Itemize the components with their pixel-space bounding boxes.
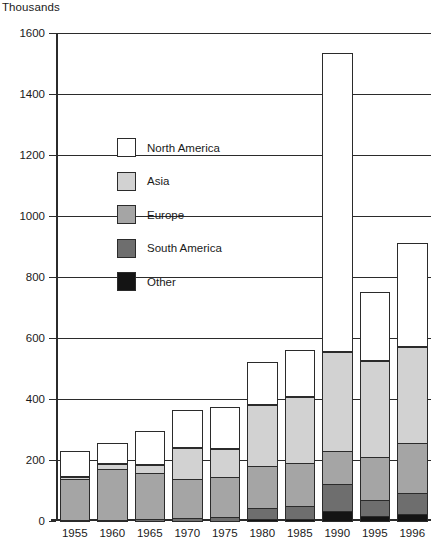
legend-label: Europe xyxy=(147,209,184,221)
legend-swatch xyxy=(117,205,136,224)
bar-segment xyxy=(210,477,241,518)
y-axis-tick-label: 1600 xyxy=(19,27,45,39)
bar-segment xyxy=(60,520,91,522)
bar-segment xyxy=(135,473,166,520)
y-axis-unit-label: Thousands xyxy=(2,1,60,13)
bar-group xyxy=(172,410,203,521)
bar-segment xyxy=(322,511,353,522)
legend-swatch xyxy=(117,172,136,191)
legend-item: Other xyxy=(117,272,222,291)
bar-group xyxy=(397,243,428,521)
y-axis-tick xyxy=(49,338,56,339)
y-axis-tick xyxy=(49,216,56,217)
bar-segment xyxy=(210,517,241,522)
bar-group xyxy=(97,443,128,521)
bar-segment xyxy=(397,443,428,493)
bar-segment xyxy=(135,519,166,522)
legend-item: South America xyxy=(117,239,222,258)
bar-group xyxy=(60,451,91,521)
bar-segment xyxy=(397,347,428,445)
y-axis-tick-label: 1000 xyxy=(19,210,45,222)
legend-swatch xyxy=(117,138,136,157)
y-axis-tick xyxy=(49,33,56,34)
bar-segment xyxy=(135,431,166,465)
legend-swatch xyxy=(117,272,136,291)
plot-area: 02004006008001000120014001600 xyxy=(56,33,431,521)
bar-group xyxy=(322,53,353,521)
bar-segment xyxy=(360,516,391,522)
legend-label: North America xyxy=(147,142,220,154)
legend-item: Asia xyxy=(117,172,222,191)
bar-segment xyxy=(172,518,203,523)
bar-segment xyxy=(247,362,278,405)
bar-segment xyxy=(247,466,278,509)
bar-segment xyxy=(210,449,241,478)
y-axis-tick xyxy=(49,94,56,95)
bar-group xyxy=(210,407,241,521)
bar-segment xyxy=(97,469,128,521)
bar-segment xyxy=(172,479,203,519)
x-axis-tick-label: 1996 xyxy=(387,527,435,539)
bar-segment xyxy=(210,407,241,448)
y-axis-tick xyxy=(49,399,56,400)
bar-segment xyxy=(97,520,128,522)
bar-group xyxy=(360,292,391,521)
y-axis-tick xyxy=(49,155,56,156)
bar-group xyxy=(135,431,166,521)
stacked-bar-chart: Thousands 02004006008001000120014001600 … xyxy=(0,0,435,559)
bar-segment xyxy=(285,519,316,522)
legend: North AmericaAsiaEuropeSouth AmericaOthe… xyxy=(117,138,222,291)
y-axis-tick xyxy=(49,460,56,461)
y-axis-tick-label: 200 xyxy=(26,454,45,466)
bar-segment xyxy=(285,350,316,397)
bar-segment xyxy=(397,493,428,516)
bar-group xyxy=(247,362,278,521)
y-axis-tick-label: 800 xyxy=(26,271,45,283)
bar-series-container xyxy=(56,33,431,521)
y-axis-tick-label: 1400 xyxy=(19,88,45,100)
y-axis-tick-label: 1200 xyxy=(19,149,45,161)
y-axis-tick-label: 0 xyxy=(39,515,45,527)
bar-segment xyxy=(322,352,353,453)
bar-segment xyxy=(60,451,91,477)
bar-segment xyxy=(172,410,203,448)
bar-segment xyxy=(285,397,316,464)
bar-segment xyxy=(360,361,391,459)
bar-segment xyxy=(397,514,428,522)
legend-label: Other xyxy=(147,276,176,288)
legend-label: Asia xyxy=(147,175,169,187)
bar-group xyxy=(285,350,316,521)
bar-segment xyxy=(397,243,428,347)
legend-item: Europe xyxy=(117,205,222,224)
bar-segment xyxy=(322,53,353,352)
legend-swatch xyxy=(117,239,136,258)
bar-segment xyxy=(247,519,278,522)
y-axis-tick xyxy=(49,521,56,522)
y-axis-tick-label: 600 xyxy=(26,332,45,344)
legend-item: North America xyxy=(117,138,222,157)
bar-segment xyxy=(247,405,278,468)
bar-segment xyxy=(322,451,353,485)
bar-segment xyxy=(360,292,391,361)
legend-label: South America xyxy=(147,242,222,254)
bar-segment xyxy=(360,500,391,517)
bar-segment xyxy=(285,463,316,507)
bar-segment xyxy=(97,443,128,464)
y-axis-tick xyxy=(49,277,56,278)
bar-segment xyxy=(360,457,391,501)
bar-segment xyxy=(60,479,91,522)
bar-segment xyxy=(322,484,353,513)
bar-segment xyxy=(172,448,203,480)
y-axis-tick-label: 400 xyxy=(26,393,45,405)
